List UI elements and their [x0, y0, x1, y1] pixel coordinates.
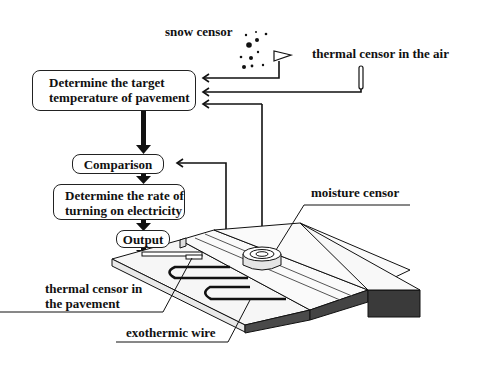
output-label: Output — [123, 232, 163, 247]
output-box: Output — [116, 230, 170, 248]
moisture-sensor-label: moisture censor — [311, 185, 399, 200]
snow-sensor-label: snow censor — [165, 24, 233, 39]
rate-box-line1: Determine the rate of — [65, 188, 184, 203]
comparison-box: Comparison — [72, 154, 164, 174]
snow-icon — [240, 31, 268, 69]
diagram-canvas: snow censor thermal censor in the air mo… — [0, 0, 479, 367]
rate-box: Determine the rate of turning on electri… — [53, 184, 185, 220]
exothermic-wire-label: exothermic wire — [126, 325, 216, 340]
rate-box-line2: turning on electricity — [65, 203, 184, 218]
moisture-sensor-icon — [243, 247, 281, 270]
comparison-label: Comparison — [84, 157, 153, 172]
target-box-line1: Determine the target — [49, 75, 195, 90]
pavement-sensor-label-line2: the pavement — [45, 296, 120, 311]
air-thermal-sensor-icon — [359, 66, 363, 89]
snow-sensor-icon — [274, 51, 291, 61]
air-sensor-label: thermal censor in the air — [312, 46, 449, 61]
target-box-line2: temperature of pavement — [49, 90, 195, 105]
target-temperature-box: Determine the target temperature of pave… — [32, 70, 196, 111]
pavement-sensor-label-line1: thermal censor in — [45, 281, 142, 296]
